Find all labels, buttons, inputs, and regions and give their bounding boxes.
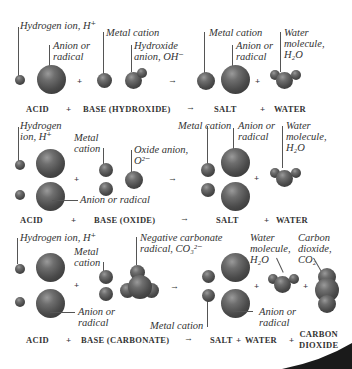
- salt-anion-sphere: [221, 65, 250, 94]
- label-line: ion, H⁺: [20, 131, 52, 142]
- eq-water: WATER: [276, 215, 308, 225]
- salt-anion-sphere: [221, 289, 250, 318]
- hydrogen-ion-sphere: [15, 297, 25, 307]
- leader-line: [131, 150, 132, 172]
- plus-sign: +: [254, 281, 259, 291]
- leader-line: [17, 238, 18, 264]
- label-line: Metal: [74, 246, 99, 257]
- salt-anion-sphere: [221, 182, 250, 211]
- eq-arrow: →: [186, 102, 195, 112]
- eq-plus: +: [66, 335, 71, 345]
- leader-line: [204, 32, 205, 74]
- label-carbonate: Negative carbonateradical, CO₃²⁻: [140, 232, 223, 254]
- salt-metal-sphere: [197, 72, 215, 90]
- label-line: Metal: [74, 132, 99, 143]
- label-line: cation: [74, 143, 100, 154]
- eq-base: BASE (HYDROXIDE): [83, 104, 171, 114]
- label-hydrogen-ion: Hydrogen ion, H⁺: [20, 20, 96, 31]
- label-salt-metal: Metal cation: [150, 320, 203, 331]
- label-salt-metal: Metal cation: [209, 27, 262, 38]
- label-anion: Anion orradical: [78, 306, 115, 328]
- label-salt-anion: Anion orradical: [238, 120, 275, 142]
- label-metal-cation: Metalcation: [74, 132, 100, 154]
- label-water: Watermolecule,H₂O: [250, 232, 291, 265]
- eq-plus: +: [260, 104, 265, 114]
- metal-cation-sphere: [97, 73, 112, 88]
- salt-anion-sphere: [221, 253, 250, 282]
- label-line: H₂O: [250, 254, 269, 265]
- leader-line: [282, 126, 283, 168]
- label-line: Hydrogen: [20, 120, 62, 131]
- eq-salt: SALT: [214, 104, 237, 114]
- label-metal-cation: Metal cation: [106, 27, 159, 38]
- leader-line: [280, 32, 281, 72]
- leader-line: [233, 128, 234, 150]
- leader-line: [131, 45, 132, 72]
- anion-sphere: [36, 253, 65, 282]
- salt-metal-sphere: [201, 183, 215, 197]
- label-line: Anion or: [238, 120, 275, 131]
- eq-plus: +: [71, 215, 76, 225]
- leader-line: [232, 45, 233, 67]
- eq-acid: ACID: [26, 104, 49, 114]
- leader-line: [233, 311, 253, 312]
- label-line: Water: [286, 120, 311, 131]
- label-line: radical: [259, 317, 289, 328]
- label-oxide: Oxide anion,O²⁻: [134, 144, 188, 166]
- label-line: Oxide anion,: [134, 144, 188, 155]
- salt-anion-sphere: [221, 148, 250, 177]
- metal-cation-sphere: [99, 182, 113, 196]
- label-line: Negative carbonate: [140, 232, 223, 243]
- label-line: Water: [284, 27, 309, 38]
- eq-base: BASE (CARBONATE): [81, 335, 169, 345]
- eq-water: WATER: [274, 104, 306, 114]
- label-anion: Anion or radical: [80, 194, 150, 205]
- carbonate-carbon-sphere: [128, 275, 152, 299]
- label-line: H₂O: [284, 49, 303, 60]
- oxide-sphere: [125, 171, 143, 189]
- water-oxygen-sphere: [276, 170, 293, 187]
- anion-sphere: [36, 289, 65, 318]
- plus-sign: +: [303, 281, 308, 291]
- water-oxygen-sphere: [276, 72, 293, 89]
- hydroxide-hydrogen-sphere: [137, 68, 147, 78]
- leader-line: [103, 148, 104, 164]
- page-corner-shadow: [282, 329, 352, 369]
- eq-salt: SALT: [210, 335, 233, 345]
- eq-base: BASE (OXIDE): [94, 215, 155, 225]
- eq-acid: ACID: [20, 215, 43, 225]
- salt-metal-sphere: [201, 163, 215, 177]
- water-oxygen-sphere: [274, 276, 291, 293]
- label-line: molecule,: [250, 243, 291, 254]
- label-salt-anion: Anion orradical: [259, 306, 296, 328]
- metal-cation-sphere: [99, 287, 113, 301]
- anion-sphere: [36, 182, 65, 211]
- arrow: →: [170, 281, 179, 291]
- label-line: anion, OH⁻: [134, 51, 184, 62]
- label-line: radical, CO₃²⁻: [140, 243, 203, 254]
- label-line: cation: [74, 257, 100, 268]
- leader-line: [136, 237, 137, 265]
- eq-acid: ACID: [26, 335, 49, 345]
- label-line: molecule,: [284, 38, 325, 49]
- eq-plus: +: [66, 104, 71, 114]
- label-line: radical: [238, 131, 268, 142]
- leader-line: [207, 126, 208, 166]
- label-salt-anion: Anion orradical: [236, 40, 273, 62]
- label-line: radical: [53, 51, 83, 62]
- label-water: Watermolecule,H₂O: [284, 27, 325, 60]
- leader-line: [49, 45, 50, 67]
- metal-cation-sphere: [99, 270, 113, 284]
- arrow: →: [168, 173, 177, 183]
- eq-plus: +: [264, 215, 269, 225]
- label-line: O²⁻: [134, 155, 150, 166]
- leader-line: [18, 27, 19, 77]
- plus-sign: +: [254, 173, 259, 183]
- hydrogen-ion-sphere: [15, 75, 25, 85]
- label-line: Carbon: [298, 232, 330, 243]
- anion-sphere: [36, 149, 65, 178]
- eq-water: WATER: [245, 335, 277, 345]
- leader-line: [18, 127, 19, 163]
- label-metal-cation: Metalcation: [74, 246, 100, 268]
- label-line: Hydroxide: [134, 40, 178, 51]
